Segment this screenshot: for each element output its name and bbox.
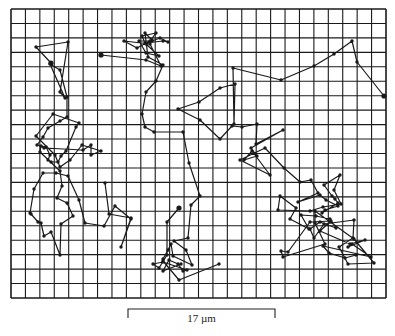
data-point <box>332 52 335 55</box>
data-point <box>281 128 284 131</box>
data-point <box>186 236 189 239</box>
data-point <box>337 245 340 248</box>
data-point <box>281 255 284 258</box>
data-point <box>254 142 257 145</box>
trajectory-1 <box>28 40 132 256</box>
data-point <box>143 31 146 34</box>
data-point <box>313 221 316 224</box>
data-point <box>32 187 35 190</box>
data-point <box>313 209 316 212</box>
data-point <box>66 40 69 43</box>
data-point <box>49 160 52 163</box>
data-point <box>42 234 45 237</box>
data-point <box>55 196 58 199</box>
data-point <box>369 255 372 258</box>
data-point <box>268 173 271 176</box>
data-point <box>58 165 61 168</box>
data-point <box>151 262 154 265</box>
scale-bar-label: 17 µm <box>128 312 275 324</box>
data-point <box>59 154 62 157</box>
data-point <box>308 227 311 230</box>
data-point <box>83 221 86 224</box>
data-point <box>144 42 147 45</box>
data-point <box>333 197 336 200</box>
trajectory-4 <box>176 39 386 265</box>
data-point <box>161 63 164 66</box>
data-point <box>308 209 311 212</box>
data-point <box>48 62 51 65</box>
data-point <box>176 205 181 210</box>
data-point <box>113 204 116 207</box>
data-point <box>144 58 147 61</box>
data-point <box>255 154 258 157</box>
data-point <box>320 211 323 214</box>
data-point <box>312 64 315 67</box>
grid <box>11 9 386 298</box>
data-point <box>169 242 172 245</box>
data-point <box>161 269 164 272</box>
data-point <box>296 200 299 203</box>
data-point <box>59 222 62 225</box>
trajectory-2 <box>98 31 220 281</box>
data-point <box>46 158 49 161</box>
data-point <box>309 178 312 181</box>
data-point <box>332 188 335 191</box>
data-point <box>308 220 311 223</box>
data-point <box>330 194 333 197</box>
data-point <box>56 160 59 163</box>
data-point <box>176 107 179 110</box>
data-point <box>218 86 221 89</box>
data-point <box>122 39 125 42</box>
data-point <box>152 130 155 133</box>
data-point <box>381 93 386 98</box>
data-point <box>242 158 245 161</box>
data-point <box>54 171 57 174</box>
data-point <box>282 166 285 169</box>
data-point <box>179 262 182 265</box>
data-point <box>279 78 282 81</box>
data-point <box>34 45 37 48</box>
data-point <box>321 244 324 247</box>
data-point <box>177 278 180 281</box>
data-point <box>154 31 157 34</box>
data-point <box>276 208 279 211</box>
data-point <box>68 158 71 161</box>
data-point <box>217 262 220 265</box>
trajectories <box>28 31 386 281</box>
data-point <box>263 146 266 149</box>
data-point <box>103 181 106 184</box>
data-point <box>355 60 358 63</box>
data-point <box>77 121 80 124</box>
data-point <box>65 115 68 118</box>
data-point <box>102 224 105 227</box>
data-point <box>298 180 301 183</box>
data-point <box>286 250 289 253</box>
data-point <box>129 216 132 219</box>
data-point <box>48 153 51 156</box>
data-point <box>140 34 143 37</box>
data-point <box>343 256 346 259</box>
data-point <box>323 208 326 211</box>
data-point <box>60 184 63 187</box>
data-point <box>80 143 83 146</box>
data-point <box>74 125 77 128</box>
data-point <box>354 253 357 256</box>
data-point <box>278 194 281 197</box>
data-point <box>35 143 38 146</box>
data-point <box>231 66 234 69</box>
data-point <box>184 248 187 251</box>
data-point <box>181 269 184 272</box>
data-point <box>322 222 325 225</box>
data-point <box>230 124 233 127</box>
data-point <box>58 119 61 122</box>
data-point <box>154 79 157 82</box>
data-point <box>218 137 221 140</box>
data-point <box>148 42 151 45</box>
data-point <box>58 90 61 93</box>
data-point <box>36 220 39 223</box>
data-point <box>157 54 160 57</box>
data-point <box>99 149 102 152</box>
data-point <box>158 36 161 39</box>
data-point <box>77 198 80 201</box>
data-point <box>187 161 190 164</box>
